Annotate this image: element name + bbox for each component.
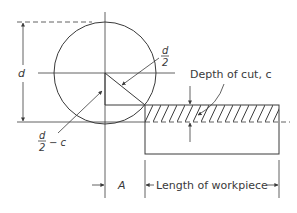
approach-label: A: [117, 179, 126, 192]
half-diameter-den: 2: [162, 57, 168, 68]
half-minus-c-den: 2: [39, 142, 45, 153]
half-minus-c-suffix: − c: [49, 137, 67, 148]
depth-of-cut-label: Depth of cut, c: [190, 68, 271, 81]
depth-of-cut-band: [145, 105, 279, 122]
half-diameter-num: d: [162, 45, 169, 56]
half-minus-c-num: d: [39, 130, 46, 141]
length-label: Length of workpiece: [156, 179, 268, 192]
geometry-triangle: [105, 73, 145, 105]
half-minus-c-leader: [58, 91, 102, 133]
half-diameter-leader: [122, 58, 159, 85]
diameter-label: d: [18, 67, 26, 80]
cutter-workpiece-diagram: d d 2 d 2 − c Depth of cut, c A Length o…: [0, 0, 297, 213]
